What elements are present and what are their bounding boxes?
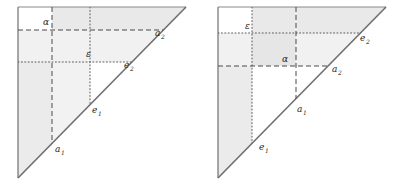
svg-text:a: a [332,64,337,74]
e1-label: e 1 [92,105,102,117]
svg-text:e: e [124,60,129,70]
svg-text:1: 1 [303,109,307,116]
svg-text:1: 1 [265,147,269,154]
svg-text:a: a [55,144,60,154]
shade-lower-mid-block [52,62,90,178]
svg-text:1: 1 [61,149,65,156]
figure-container: α ε a 2 e 2 e 1 a 1 [0,0,398,186]
e2-label: e 2 [360,33,370,45]
epsilon-label: ε [86,49,91,59]
e1-label: e 1 [259,142,269,154]
shade-epsilon-top-right [252,7,386,33]
svg-text:e: e [360,33,365,43]
right-diagram: ε α e 2 a 2 a 1 e 1 [199,0,398,186]
svg-text:2: 2 [337,69,342,76]
a1-label: a 1 [55,144,65,156]
alpha-label: α [282,54,288,64]
svg-text:e: e [259,142,264,152]
a1-label: a 1 [297,104,307,116]
left-diagram: α ε a 2 e 2 e 1 a 1 [0,0,199,186]
svg-text:2: 2 [160,33,165,40]
epsilon-label: ε [245,21,250,31]
svg-text:2: 2 [129,65,134,72]
right-diagram-canvas: ε α e 2 a 2 a 1 e 1 [199,0,398,186]
left-diagram-canvas: α ε a 2 e 2 e 1 a 1 [0,0,199,186]
svg-text:2: 2 [365,38,370,45]
shade-mid-emphasis-block [252,33,296,66]
a2-label: a 2 [332,64,342,76]
svg-text:e: e [92,105,97,115]
alpha-label: α [43,17,49,27]
svg-text:a: a [297,104,302,114]
svg-text:a: a [155,28,160,38]
svg-text:1: 1 [98,110,102,117]
